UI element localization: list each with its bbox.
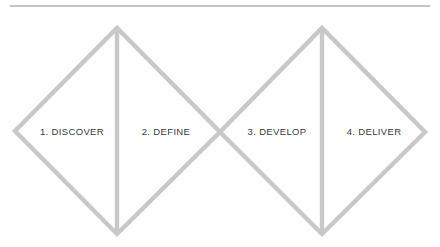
double-diamond-figure: 1. DISCOVER 2. DEFINE 3. DEVELOP 4. DELI…	[0, 0, 440, 247]
phase-label-define: 2. DEFINE	[142, 126, 191, 137]
phase-label-discover: 1. DISCOVER	[40, 126, 104, 137]
double-diamond-diagram: 1. DISCOVER 2. DEFINE 3. DEVELOP 4. DELI…	[0, 0, 440, 247]
phase-label-deliver: 4. DELIVER	[347, 126, 402, 137]
phase-label-develop: 3. DEVELOP	[248, 126, 307, 137]
